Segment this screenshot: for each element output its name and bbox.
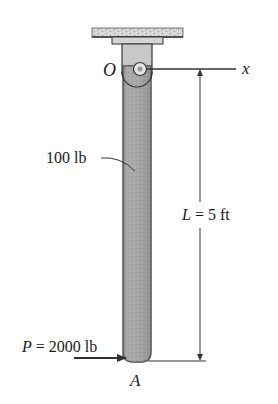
rod bbox=[122, 66, 152, 362]
weight-label: 100 lb bbox=[46, 149, 86, 166]
ceiling-support bbox=[92, 28, 183, 44]
length-label: L = 5 ft bbox=[181, 206, 230, 223]
force-label: P = 2000 lb bbox=[21, 338, 97, 355]
x-axis-label: x bbox=[241, 59, 250, 78]
pivot-label: O bbox=[103, 60, 116, 80]
pivot-pin-icon bbox=[134, 63, 147, 76]
end-point-label: A bbox=[129, 371, 141, 390]
diagram-canvas: x O L = 5 ft 100 lb P = 2000 lb A bbox=[0, 0, 278, 404]
